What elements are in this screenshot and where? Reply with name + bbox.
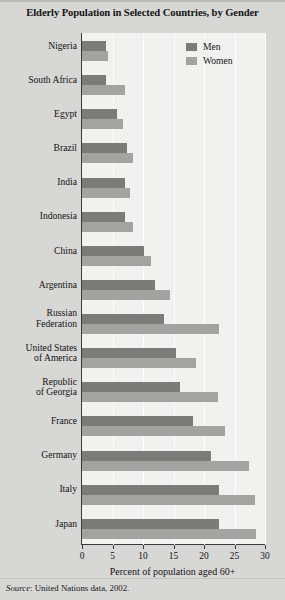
bar-women [82, 461, 249, 471]
bar-group [82, 511, 265, 545]
bar-women [82, 290, 170, 300]
x-tick-label: 0 [72, 551, 92, 561]
bar-group [82, 477, 265, 511]
bar-group [82, 408, 265, 442]
category-label-line: Brazil [0, 143, 77, 154]
bar-women [82, 153, 133, 163]
category-label-line: Japan [0, 519, 77, 530]
bar-group [82, 340, 265, 374]
bar-women [82, 222, 133, 232]
category-label: RussianFederation [0, 308, 77, 329]
category-label-line: Indonesia [0, 211, 77, 222]
bar-women [82, 51, 108, 61]
bar-men [82, 178, 125, 188]
chart-legend: Men Women [186, 41, 233, 69]
category-label-line: China [0, 246, 77, 257]
x-tick-label: 15 [164, 551, 184, 561]
bar-men [82, 143, 127, 153]
bar-group [82, 238, 265, 272]
tick-25 [235, 545, 236, 549]
category-label-line: of Georgia [0, 387, 77, 398]
category-label-line: Italy [0, 484, 77, 495]
category-label: Brazil [0, 143, 77, 154]
category-label: United Statesof America [0, 343, 77, 364]
category-label: Egypt [0, 109, 77, 120]
bar-women [82, 529, 256, 539]
bar-women [82, 358, 196, 368]
bar-men [82, 75, 106, 85]
category-label: Italy [0, 484, 77, 495]
chart-title: Elderly Population in Selected Countries… [0, 7, 285, 18]
top-divider [0, 0, 285, 2]
category-label: Japan [0, 519, 77, 530]
bottom-divider [0, 578, 285, 579]
tick-0 [82, 545, 83, 549]
category-label: Nigeria [0, 41, 77, 52]
bar-women [82, 495, 255, 505]
source-note: Source: United Nations data, 2002. [6, 583, 129, 593]
bar-men [82, 109, 117, 119]
category-label-line: of America [0, 353, 77, 364]
x-tick-label: 20 [194, 551, 214, 561]
category-label: Republicof Georgia [0, 377, 77, 398]
bar-group [82, 204, 265, 238]
legend-swatch-men-icon [186, 43, 197, 51]
bar-women [82, 324, 219, 334]
category-label: China [0, 246, 77, 257]
legend-label-women: Women [203, 55, 233, 66]
bar-group [82, 306, 265, 340]
bar-men [82, 246, 144, 256]
bar-women [82, 188, 130, 198]
bar-women [82, 426, 225, 436]
category-label: India [0, 177, 77, 188]
bar-men [82, 280, 155, 290]
category-label: Indonesia [0, 211, 77, 222]
category-label: Argentina [0, 280, 77, 291]
category-label: Germany [0, 450, 77, 461]
tick-30 [265, 545, 266, 549]
bar-group [82, 443, 265, 477]
x-tick-label: 10 [133, 551, 153, 561]
bar-group [82, 67, 265, 101]
bar-group [82, 272, 265, 306]
category-label-line: France [0, 416, 77, 427]
category-label: South Africa [0, 75, 77, 86]
bar-group [82, 374, 265, 408]
category-label-line: Germany [0, 450, 77, 461]
bar-men [82, 451, 211, 461]
bar-women [82, 85, 125, 95]
bar-women [82, 392, 218, 402]
category-label-line: Argentina [0, 280, 77, 291]
x-tick-label: 30 [255, 551, 275, 561]
bar-men [82, 519, 219, 529]
bar-men [82, 416, 193, 426]
bar-men [82, 212, 125, 222]
bar-men [82, 382, 180, 392]
bar-men [82, 314, 164, 324]
bar-men [82, 41, 106, 51]
bar-group [82, 135, 265, 169]
bar-women [82, 256, 151, 266]
tick-10 [143, 545, 144, 549]
gridline-30 [265, 33, 266, 545]
bar-group [82, 33, 265, 67]
chart-figure: Elderly Population in Selected Countries… [0, 0, 285, 600]
x-tick-label: 25 [225, 551, 245, 561]
legend-item-women: Women [186, 55, 233, 66]
legend-item-men: Men [186, 41, 233, 52]
tick-5 [113, 545, 114, 549]
bar-men [82, 348, 176, 358]
tick-20 [204, 545, 205, 549]
legend-label-men: Men [203, 41, 221, 52]
category-label-line: Egypt [0, 109, 77, 120]
tick-15 [174, 545, 175, 549]
category-label-line: Federation [0, 319, 77, 330]
category-label-line: Nigeria [0, 41, 77, 52]
bar-group [82, 101, 265, 135]
source-prefix: Source [6, 583, 30, 593]
bar-group [82, 170, 265, 204]
category-label-line: India [0, 177, 77, 188]
bar-men [82, 485, 219, 495]
x-axis-title: Percent of population aged 60+ [60, 566, 285, 577]
x-tick-label: 5 [103, 551, 123, 561]
